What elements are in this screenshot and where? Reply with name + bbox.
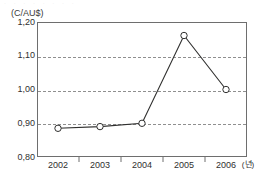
- x-tick-label: 2006: [216, 160, 236, 170]
- x-tick-label: 2004: [132, 160, 152, 170]
- x-tick-label: 2003: [90, 160, 110, 170]
- chart-data-layer: [0, 0, 262, 179]
- data-point-2002: [55, 125, 61, 131]
- chart-figure: · · · · · · · · (C/AU$) 1,20 1,10 1,00 0…: [0, 0, 262, 179]
- data-point-2005: [181, 32, 187, 38]
- x-axis-tick-labels: 2002 2003 2004 2005 2006 (년): [0, 160, 262, 174]
- x-tick-label: 2005: [174, 160, 194, 170]
- data-point-2004: [139, 120, 145, 126]
- x-axis-unit-label: (년): [242, 160, 254, 170]
- data-point-2003: [97, 123, 103, 129]
- data-point-2006: [223, 86, 229, 92]
- series-line-c-per-aud: [58, 36, 226, 129]
- x-tick-label: 2002: [48, 160, 68, 170]
